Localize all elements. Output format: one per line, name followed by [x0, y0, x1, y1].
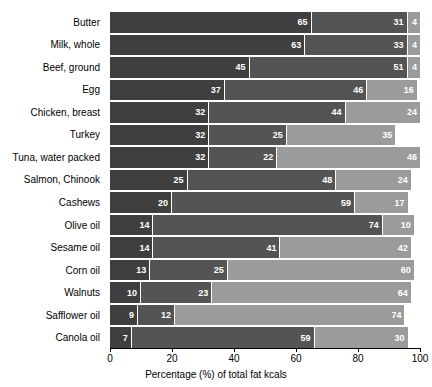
bar-segment-value: 25: [173, 175, 183, 184]
bar-segment-value: 10: [401, 221, 411, 230]
x-axis-tick-label: 100: [412, 353, 429, 364]
x-axis-line: [110, 348, 421, 349]
bar-row: 147410: [110, 215, 420, 236]
bar-segment-value: 13: [136, 266, 146, 275]
bar-segment-value: 4: [412, 63, 417, 72]
bar-segment-value: 59: [301, 333, 311, 342]
bar-row: 374616: [110, 80, 420, 101]
bar-segment: 14: [110, 237, 153, 258]
stacked-bar-chart: ButterMilk, wholeBeef, groundEggChicken,…: [0, 0, 432, 387]
bar-segment-value: 12: [161, 311, 171, 320]
bar-segment-value: 46: [407, 153, 417, 162]
x-axis-tick-label: 0: [107, 353, 113, 364]
x-axis-tick: [420, 348, 421, 352]
category-label: Walnuts: [0, 282, 105, 303]
bar-row: 45514: [110, 57, 420, 78]
bar-row: 102364: [110, 282, 420, 303]
bar-segment: 35: [287, 125, 396, 146]
bar-segment-value: 51: [394, 63, 404, 72]
bar-row: 91274: [110, 305, 420, 326]
bar-segment-value: 63: [291, 40, 301, 49]
category-label: Egg: [0, 80, 105, 101]
bar-segment-value: 4: [412, 18, 417, 27]
bar-segment: 63: [110, 35, 305, 56]
category-label: Tuna, water packed: [0, 147, 105, 168]
bar-segment: 23: [141, 282, 212, 303]
bar-segment: 45: [110, 57, 250, 78]
bar-segment: 25: [110, 170, 188, 191]
bar-segment: 4: [408, 12, 420, 33]
bar-segment-value: 25: [214, 266, 224, 275]
bar-segment-value: 14: [139, 243, 149, 252]
category-label: Salmon, Chinook: [0, 170, 105, 191]
bar-segment-value: 74: [369, 221, 379, 230]
bar-segment-value: 33: [394, 40, 404, 49]
bar-segment: 4: [408, 35, 420, 56]
category-label: Butter: [0, 12, 105, 33]
bar-segment: 51: [250, 57, 408, 78]
bar-segment-value: 22: [263, 153, 273, 162]
bar-segment: 25: [150, 260, 228, 281]
bar-segment: 12: [138, 305, 175, 326]
bar-segment-value: 20: [158, 198, 168, 207]
bar-segment: 32: [110, 125, 209, 146]
bar-segment: 10: [383, 215, 414, 236]
bar-row: 322535: [110, 125, 420, 146]
bar-segment: 7: [110, 327, 132, 348]
x-axis-tick: [172, 348, 173, 352]
x-axis-title: Percentage (%) of total fat kcals: [0, 369, 432, 380]
category-label: Canola oil: [0, 327, 105, 348]
bar-segment-value: 32: [195, 130, 205, 139]
bar-segment-value: 24: [407, 108, 417, 117]
x-axis-tick: [110, 348, 111, 352]
bar-segment: 46: [277, 147, 420, 168]
bar-segment-value: 37: [211, 85, 221, 94]
bar-segment: 10: [110, 282, 141, 303]
bar-segment: 33: [305, 35, 407, 56]
bar-segment: 59: [132, 327, 315, 348]
bar-segment-value: 64: [398, 288, 408, 297]
bar-segment: 16: [367, 80, 417, 101]
bar-segment: 59: [172, 192, 355, 213]
bar-segment: 32: [110, 147, 209, 168]
bar-segment: 25: [209, 125, 287, 146]
bar-segment-value: 25: [273, 130, 283, 139]
bar-segment-value: 74: [391, 311, 401, 320]
bar-segment-value: 14: [139, 221, 149, 230]
x-axis-tick: [358, 348, 359, 352]
bar-segment: 65: [110, 12, 312, 33]
x-axis-tick-label: 80: [352, 353, 363, 364]
bar-segment: 42: [280, 237, 410, 258]
x-axis-tick: [296, 348, 297, 352]
bar-segment-value: 45: [235, 63, 245, 72]
category-label: Beef, ground: [0, 57, 105, 78]
bar-segment: 24: [346, 102, 420, 123]
category-label: Chicken, breast: [0, 102, 105, 123]
bar-row: 132560: [110, 260, 420, 281]
bar-segment-value: 32: [195, 108, 205, 117]
category-label: Sesame oil: [0, 237, 105, 258]
bar-row: 324424: [110, 102, 420, 123]
bar-segment: 24: [336, 170, 410, 191]
bar-segment: 17: [355, 192, 408, 213]
bar-segment-value: 59: [341, 198, 351, 207]
bar-segment: 4: [408, 57, 420, 78]
bar-segment-value: 17: [395, 198, 405, 207]
bar-segment-value: 60: [401, 266, 411, 275]
bar-row: 63334: [110, 35, 420, 56]
bar-segment: 32: [110, 102, 209, 123]
bar-segment: 13: [110, 260, 150, 281]
bar-row: 322246: [110, 147, 420, 168]
bar-segment: 9: [110, 305, 138, 326]
category-label: Safflower oil: [0, 305, 105, 326]
x-axis-tick-label: 40: [228, 353, 239, 364]
bar-segment: 41: [153, 237, 280, 258]
bar-segment-value: 10: [127, 288, 137, 297]
bar-segment-value: 35: [382, 130, 392, 139]
bar-row: 144142: [110, 237, 420, 258]
bar-segment-value: 16: [404, 85, 414, 94]
bar-segment-value: 65: [297, 18, 307, 27]
bar-segment-value: 46: [353, 85, 363, 94]
category-label: Milk, whole: [0, 35, 105, 56]
bar-row: 254824: [110, 170, 420, 191]
